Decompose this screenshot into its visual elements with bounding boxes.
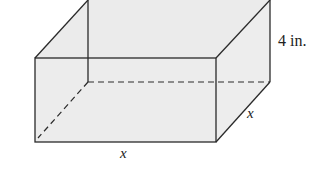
box-diagram xyxy=(0,0,327,170)
width-label: x xyxy=(120,146,127,161)
depth-label: x xyxy=(247,106,254,121)
height-label: 4 in. xyxy=(278,33,306,49)
front-face xyxy=(35,58,216,142)
